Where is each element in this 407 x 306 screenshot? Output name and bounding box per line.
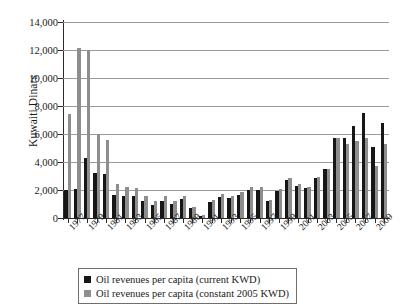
bar-group (63, 22, 73, 218)
bar-constant-2005-kwd (346, 144, 349, 218)
bar-group (73, 22, 83, 218)
y-axis-tick-label: 8,000 (6, 101, 58, 112)
y-axis-tick-labels: 14,00012,00010,0008,0006,0004,0002,0000 (0, 0, 58, 306)
x-axis-tick-mark (135, 219, 136, 223)
bar-constant-2005-kwd (298, 184, 301, 218)
x-axis-tick-mark (116, 219, 117, 223)
bar-group (351, 22, 361, 218)
x-axis-tick-labels: 1977197919811983198519871989199119931995… (63, 219, 390, 269)
x-axis-tick-mark (231, 219, 232, 223)
bar-group (255, 22, 265, 218)
oil-revenues-per-capita-bar-chart: Kuwaiti Dinars 14,00012,00010,0008,0006,… (0, 0, 407, 306)
bar-group (130, 22, 140, 218)
bar-group (216, 22, 226, 218)
bar-constant-2005-kwd (77, 48, 80, 218)
bar-constant-2005-kwd (384, 144, 387, 218)
bar-constant-2005-kwd (279, 189, 282, 218)
bar-constant-2005-kwd (260, 187, 263, 218)
y-axis-tick-label: 12,000 (6, 45, 58, 56)
y-axis-tick-label: 6,000 (6, 129, 58, 140)
x-axis-tick-mark (97, 219, 98, 223)
bar-group (341, 22, 351, 218)
bar-group (322, 22, 332, 218)
bar-group (331, 22, 341, 218)
legend-swatch-current (84, 276, 91, 283)
bar-group (140, 22, 150, 218)
x-axis-tick-mark (384, 219, 385, 223)
x-axis-tick-mark (173, 219, 174, 223)
bar-group (159, 22, 169, 218)
bar-group (303, 22, 313, 218)
bar-group (188, 22, 198, 218)
x-axis-tick-mark (192, 219, 193, 223)
bar-group (236, 22, 246, 218)
bar-group (284, 22, 294, 218)
bar-group (92, 22, 102, 218)
bar-group (168, 22, 178, 218)
bar-constant-2005-kwd (97, 134, 100, 218)
y-axis-tick-label: 2,000 (6, 185, 58, 196)
x-axis-tick-mark (212, 219, 213, 223)
bar-group (226, 22, 236, 218)
bar-group (121, 22, 131, 218)
bar-constant-2005-kwd (164, 196, 167, 218)
bar-group (379, 22, 389, 218)
bar-group (207, 22, 217, 218)
legend-item: Oil revenues per capita (current KWD) (84, 272, 289, 286)
bar-group (274, 22, 284, 218)
x-axis-tick-mark (288, 219, 289, 223)
bar-group (370, 22, 380, 218)
legend-swatch-constant (84, 290, 91, 297)
bar-group (293, 22, 303, 218)
x-axis-tick-mark (269, 219, 270, 223)
x-axis-tick-mark (327, 219, 328, 223)
x-axis-tick-mark (308, 219, 309, 223)
bar-constant-2005-kwd (202, 215, 205, 218)
y-axis-tick-label: 14,000 (6, 17, 58, 28)
bar-group (360, 22, 370, 218)
bar-group (178, 22, 188, 218)
x-axis-tick-mark (154, 219, 155, 223)
bar-group (245, 22, 255, 218)
bar-group (111, 22, 121, 218)
chart-legend: Oil revenues per capita (current KWD) Oi… (78, 268, 297, 304)
bar-group (149, 22, 159, 218)
bar-constant-2005-kwd (365, 138, 368, 218)
y-axis-tick-label: 10,000 (6, 73, 58, 84)
bar-constant-2005-kwd (125, 187, 128, 218)
bar-constant-2005-kwd (144, 196, 147, 218)
y-axis-tick-label: 0 (6, 213, 58, 224)
bar-group (264, 22, 274, 218)
bar-constant-2005-kwd (221, 194, 224, 218)
bar-constant-2005-kwd (106, 140, 109, 218)
x-axis-tick-mark (77, 219, 78, 223)
x-axis-tick-mark (346, 219, 347, 223)
bar-constant-2005-kwd (317, 177, 320, 218)
plot-area (63, 22, 389, 218)
bar-group (312, 22, 322, 218)
bar-constant-2005-kwd (336, 138, 339, 218)
bar-constant-2005-kwd (68, 114, 71, 218)
bar-constant-2005-kwd (240, 192, 243, 218)
bar-constant-2005-kwd (355, 141, 358, 218)
bar-constant-2005-kwd (183, 196, 186, 218)
bar-constant-2005-kwd (87, 50, 90, 218)
legend-item: Oil revenues per capita (constant 2005 K… (84, 286, 289, 300)
x-axis-tick-mark (250, 219, 251, 223)
bar-group (197, 22, 207, 218)
x-axis-tick-mark (365, 219, 366, 223)
bar-constant-2005-kwd (375, 166, 378, 218)
legend-label-current: Oil revenues per capita (current KWD) (96, 274, 260, 285)
bar-group (82, 22, 92, 218)
legend-label-constant: Oil revenues per capita (constant 2005 K… (96, 288, 289, 299)
bar-group (101, 22, 111, 218)
y-axis-tick-label: 4,000 (6, 157, 58, 168)
